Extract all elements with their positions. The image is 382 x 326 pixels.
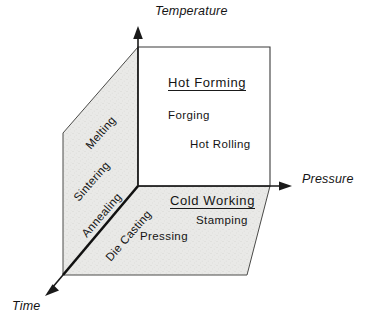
region-item-stamping: Stamping: [196, 215, 248, 227]
region-title-hot-forming: Hot Forming: [168, 76, 246, 91]
diagram-canvas: [0, 0, 382, 326]
process-map-diagram: Temperature Pressure Time Hot Forming Fo…: [0, 0, 382, 326]
axis-label-time: Time: [12, 300, 40, 313]
region-title-cold-working: Cold Working: [170, 194, 255, 209]
region-item-pressing: Pressing: [140, 231, 188, 243]
axis-label-temperature: Temperature: [155, 5, 228, 18]
time-axis-arrowhead: [45, 284, 59, 296]
region-item-forging: Forging: [168, 110, 210, 122]
axis-label-pressure: Pressure: [302, 173, 354, 186]
region-item-hot-rolling: Hot Rolling: [190, 139, 251, 151]
temperature-axis-arrowhead: [133, 26, 143, 39]
pressure-axis-arrowhead: [279, 181, 292, 190]
